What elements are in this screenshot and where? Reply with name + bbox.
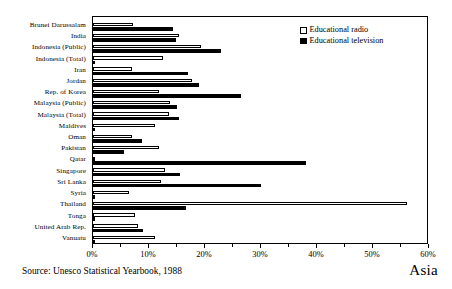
- bar-group: [93, 66, 427, 77]
- x-axis-tick-label: 10%: [140, 250, 155, 259]
- x-axis-major-tick: [428, 244, 429, 248]
- bar-educational-radio: [93, 101, 170, 104]
- bar-educational-radio: [93, 168, 165, 171]
- bar-group: [93, 167, 427, 178]
- category-label: Oman: [0, 132, 89, 143]
- x-axis-minor-tick: [120, 244, 121, 247]
- bar-educational-television: [93, 217, 95, 221]
- x-axis-tick-label: 20%: [196, 250, 211, 259]
- legend-label-television: Educational television: [310, 36, 384, 47]
- bar-educational-radio: [93, 224, 138, 227]
- bar-educational-radio: [93, 124, 155, 127]
- x-axis-minor-tick: [344, 244, 345, 247]
- x-axis-tick-label: 30%: [252, 250, 267, 259]
- bar-educational-radio: [93, 67, 132, 70]
- x-axis-tick-label: 50%: [364, 250, 379, 259]
- bar-educational-television: [93, 229, 143, 233]
- region-watermark: Asia: [409, 262, 438, 279]
- x-axis-major-tick: [204, 244, 205, 248]
- category-label: Malaysia (Public): [0, 98, 89, 109]
- bar-group: [93, 144, 427, 155]
- x-axis-tick-label: 40%: [308, 250, 323, 259]
- bar-group: [93, 223, 427, 234]
- x-axis-major-tick: [148, 244, 149, 248]
- bar-educational-radio: [93, 45, 201, 48]
- bar-educational-radio: [93, 180, 161, 183]
- bar-group: [93, 178, 427, 189]
- category-label: Tonga: [0, 210, 89, 221]
- bar-educational-radio: [93, 90, 159, 93]
- category-label: Sri Lanka: [0, 177, 89, 188]
- chart-legend: Educational radio Educational television: [298, 24, 385, 47]
- legend-swatch-radio-icon: [300, 27, 307, 34]
- bar-educational-radio: [93, 146, 159, 149]
- category-axis-labels: Brunei DarussalamIndiaIndonesia (Public)…: [0, 20, 89, 244]
- bar-educational-television: [93, 117, 179, 121]
- bar-educational-television: [93, 38, 176, 42]
- bar-educational-radio: [93, 202, 407, 205]
- legend-label-radio: Educational radio: [310, 25, 369, 36]
- bar-educational-television: [93, 195, 95, 199]
- bar-educational-radio: [93, 135, 132, 138]
- bar-educational-radio: [93, 23, 133, 26]
- category-label: Indonesia (Public): [0, 42, 89, 53]
- category-label: India: [0, 31, 89, 42]
- bar-educational-television: [93, 72, 188, 76]
- category-label: Iran: [0, 65, 89, 76]
- x-axis-minor-tick: [400, 244, 401, 247]
- bar-group: [93, 55, 427, 66]
- bar-educational-television: [93, 150, 124, 154]
- bar-group: [93, 99, 427, 110]
- bar-group: [93, 88, 427, 99]
- bar-educational-television: [93, 161, 306, 165]
- bar-educational-television: [93, 27, 173, 31]
- bar-educational-television: [93, 139, 142, 143]
- bar-group: [93, 200, 427, 211]
- legend-item-educational-television: Educational television: [300, 36, 383, 47]
- bar-group: [93, 211, 427, 222]
- bar-educational-radio: [93, 236, 155, 239]
- plot-area: [92, 16, 428, 244]
- category-label: Vanuatu: [0, 233, 89, 244]
- x-axis-major-tick: [260, 244, 261, 248]
- bar-educational-radio: [93, 191, 129, 194]
- x-axis-minor-tick: [232, 244, 233, 247]
- bar-educational-television: [93, 61, 95, 65]
- bar-educational-television: [93, 128, 95, 132]
- source-caption: Source: Unesco Statistical Yearbook, 198…: [22, 266, 182, 276]
- bar-educational-television: [93, 240, 95, 244]
- category-label: Rep. of Korea: [0, 87, 89, 98]
- category-label: Malaysia (Total): [0, 110, 89, 121]
- x-axis-minor-tick: [176, 244, 177, 247]
- bar-educational-television: [93, 173, 180, 177]
- category-label: Brunei Darussalam: [0, 20, 89, 31]
- category-label: Indonesia (Total): [0, 54, 89, 65]
- bar-educational-radio: [93, 112, 169, 115]
- bar-educational-television: [93, 94, 241, 98]
- category-label: Qatar: [0, 154, 89, 165]
- bar-group: [93, 155, 427, 166]
- bar-educational-radio: [93, 157, 95, 160]
- x-axis-major-tick: [316, 244, 317, 248]
- bar-educational-radio: [93, 79, 192, 82]
- bar-group: [93, 189, 427, 200]
- x-axis-ticks: [92, 244, 428, 249]
- bar-educational-television: [93, 83, 199, 87]
- educational-broadcasting-bar-chart: Brunei DarussalamIndiaIndonesia (Public)…: [0, 0, 452, 289]
- x-axis-tick-labels: 0%10%20%30%40%50%60%: [0, 250, 452, 264]
- category-label: Maldives: [0, 121, 89, 132]
- bar-educational-television: [93, 49, 221, 53]
- category-label: United Arab Rep.: [0, 222, 89, 233]
- bar-educational-radio: [93, 56, 163, 59]
- bar-educational-television: [93, 105, 177, 109]
- category-label: Pakistan: [0, 143, 89, 154]
- x-axis-major-tick: [372, 244, 373, 248]
- x-axis-major-tick: [92, 244, 93, 248]
- category-label: Thailand: [0, 199, 89, 210]
- legend-item-educational-radio: Educational radio: [300, 25, 383, 36]
- bar-group: [93, 111, 427, 122]
- bar-group: [93, 122, 427, 133]
- bar-group: [93, 133, 427, 144]
- x-axis-tick-label: 0%: [86, 250, 97, 259]
- legend-swatch-television-icon: [300, 38, 307, 45]
